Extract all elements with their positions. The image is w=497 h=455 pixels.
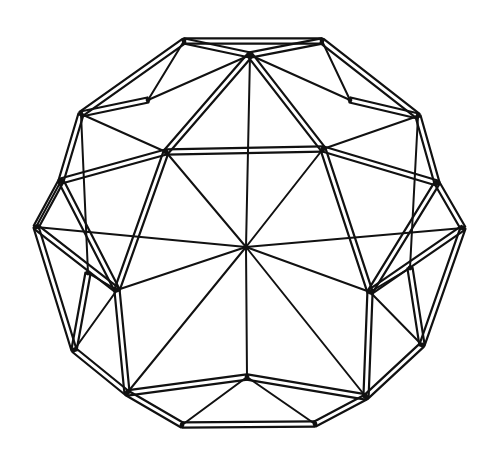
strut-edge	[182, 427, 315, 428]
vertex-node	[408, 266, 413, 271]
edge	[81, 114, 88, 273]
strut-edge	[59, 113, 79, 180]
strut-edge	[368, 347, 424, 399]
edge	[246, 247, 247, 377]
strut-edge	[38, 182, 63, 228]
strut-edge	[252, 53, 325, 147]
vertex-node	[320, 39, 325, 44]
strut-edge	[60, 149, 165, 178]
strut-edge	[363, 292, 367, 397]
strut-edge	[168, 57, 252, 154]
edge	[166, 152, 246, 247]
edge	[246, 149, 323, 247]
strut-edge	[372, 184, 439, 293]
vertex-node	[348, 98, 353, 103]
vertex-node	[313, 422, 318, 427]
vertex-node	[125, 391, 130, 396]
vertex-node	[435, 181, 440, 186]
vertex-node	[115, 288, 120, 293]
strut-edge	[128, 391, 183, 423]
strut-edge	[114, 290, 124, 393]
strut-edge	[316, 399, 367, 426]
strut-edge	[369, 292, 373, 397]
vertex-node	[245, 375, 250, 380]
strut-edge	[115, 151, 164, 289]
vertex-node	[34, 225, 39, 230]
strut-edge	[164, 53, 248, 150]
strut-edge	[322, 151, 436, 185]
vertex-node	[416, 114, 421, 119]
strut-edge	[439, 182, 465, 227]
strut-edge	[126, 395, 181, 427]
edge	[127, 247, 246, 393]
strut-edge	[38, 226, 76, 349]
strut-edge	[34, 180, 59, 226]
vertex-node	[72, 348, 77, 353]
polyhedron-figure: Polyhedral sphere line drawing	[0, 0, 497, 455]
strut-edge	[324, 147, 438, 181]
strut-edge	[72, 352, 125, 395]
vertex-node	[248, 53, 253, 58]
strut-edge	[364, 343, 420, 395]
strut-edge	[119, 153, 168, 291]
strut-edge	[247, 374, 366, 394]
edge	[246, 228, 463, 247]
strut-edge	[325, 148, 372, 291]
vertex-node	[180, 423, 185, 428]
vertex-node	[321, 147, 326, 152]
edge	[36, 181, 61, 227]
vertex-node	[368, 290, 373, 295]
strut-edge	[314, 395, 365, 422]
polyhedron-wireframe-drawing	[0, 0, 497, 455]
vertex-node	[146, 98, 151, 103]
strut-edge	[62, 155, 167, 184]
vertex-node	[164, 150, 169, 155]
vertex-node	[244, 245, 249, 250]
edge	[81, 114, 166, 152]
edge	[410, 116, 418, 268]
edge	[117, 247, 246, 290]
vertex-node	[182, 39, 187, 44]
strut-edge	[166, 146, 323, 149]
vertex-node	[420, 343, 425, 348]
strut-edge	[420, 227, 461, 344]
strut-edge	[435, 184, 461, 229]
strut-edge	[166, 152, 323, 155]
strut-edge	[421, 115, 440, 182]
vertex-node	[86, 271, 91, 276]
strut-edge	[120, 290, 130, 393]
vertex-node	[79, 112, 84, 117]
vertex-node	[59, 179, 64, 184]
edge	[246, 55, 250, 247]
edge	[323, 116, 418, 149]
strut-edge	[321, 150, 368, 293]
edge	[370, 268, 410, 292]
vertex-node	[461, 226, 466, 231]
vertex-node	[364, 395, 369, 400]
strut-edge	[182, 421, 315, 422]
